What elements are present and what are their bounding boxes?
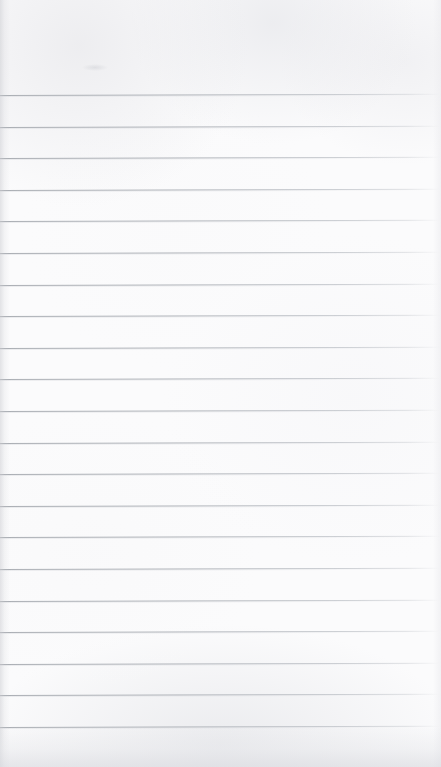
paper-background xyxy=(0,0,441,767)
top-margin xyxy=(0,0,441,95)
scanned-page xyxy=(0,0,441,767)
